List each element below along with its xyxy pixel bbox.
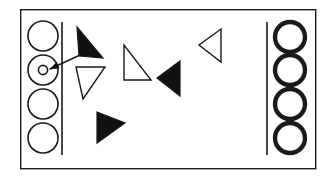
- right-circle-3: [275, 89, 305, 119]
- left-circle-1: [28, 21, 58, 51]
- left-circle-2: [28, 55, 58, 85]
- abstract-shapes-diagram: [0, 0, 336, 178]
- inner-marker-circle: [38, 65, 47, 74]
- pointer-arrow-head: [50, 63, 59, 69]
- figure-canvas: [0, 0, 336, 178]
- left-circle-3: [28, 89, 58, 119]
- triangle-filled-center-right: [157, 61, 180, 96]
- right-circle-1: [275, 22, 305, 52]
- triangle-filled-lower-left: [97, 112, 125, 143]
- triangle-outlined-center: [124, 45, 151, 80]
- left-circle-4: [28, 123, 58, 153]
- triangle-outlined-upper-right: [199, 29, 221, 62]
- triangle-outlined-left: [76, 67, 105, 99]
- right-circle-4: [275, 123, 305, 153]
- outer-frame-rect: [21, 10, 316, 169]
- triangle-filled-upper-left: [77, 27, 103, 58]
- right-circle-2: [275, 55, 305, 85]
